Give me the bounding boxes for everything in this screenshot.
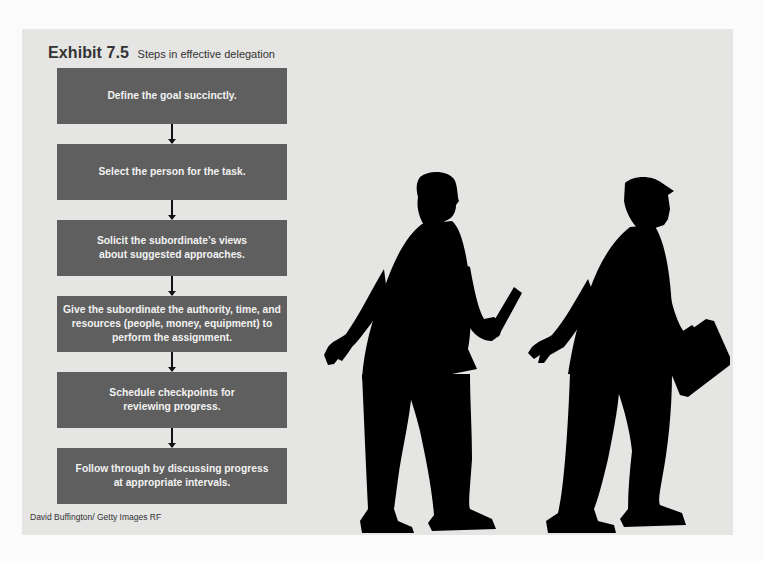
step-label: Give the subordinate the authority, time…	[63, 303, 281, 345]
step-box-2: Select the person for the task.	[57, 144, 287, 200]
step-label: Select the person for the task.	[98, 165, 245, 179]
step-label: Define the goal succinctly.	[107, 89, 236, 103]
arrow-down-icon	[171, 200, 173, 219]
step-box-1: Define the goal succinctly.	[57, 68, 287, 124]
step-label: Follow through by discussing progress at…	[72, 462, 272, 490]
step-box-4: Give the subordinate the authority, time…	[57, 296, 287, 352]
arrow-down-icon	[171, 276, 173, 295]
man-with-baton-silhouette	[324, 172, 522, 533]
businessmen-silhouette-image	[302, 169, 732, 539]
photo-credit: David Buffington/ Getty Images RF	[30, 512, 161, 522]
arrow-down-icon	[171, 352, 173, 371]
step-box-3: Solicit the subordinate’s views about su…	[57, 220, 287, 276]
step-label: Schedule checkpoints for reviewing progr…	[97, 386, 247, 414]
man-with-briefcase-silhouette	[528, 177, 730, 533]
arrow-down-icon	[171, 124, 173, 143]
step-box-6: Follow through by discussing progress at…	[57, 448, 287, 504]
exhibit-title: Exhibit 7.5 Steps in effective delegatio…	[48, 44, 275, 62]
exhibit-number: Exhibit 7.5	[48, 44, 129, 61]
arrow-down-icon	[171, 428, 173, 447]
step-label: Solicit the subordinate’s views about su…	[82, 234, 262, 262]
exhibit-subtitle: Steps in effective delegation	[138, 48, 275, 60]
step-box-5: Schedule checkpoints for reviewing progr…	[57, 372, 287, 428]
exhibit-panel: Exhibit 7.5 Steps in effective delegatio…	[22, 29, 733, 535]
